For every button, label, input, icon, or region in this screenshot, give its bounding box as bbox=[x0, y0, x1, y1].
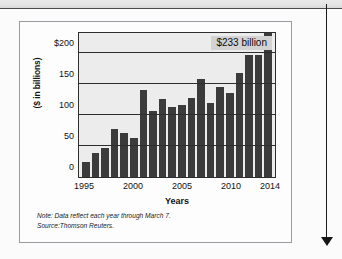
bar-2012 bbox=[244, 55, 254, 177]
x-axis-title: Years bbox=[78, 196, 276, 206]
bar-1999 bbox=[119, 133, 129, 177]
bar-1997 bbox=[100, 148, 110, 177]
plot-area: $233 billion 050100150$20019952000200520… bbox=[78, 32, 276, 178]
down-arrow-icon bbox=[321, 237, 333, 246]
figure-notes: Note: Data reflect each year through Mar… bbox=[37, 211, 277, 231]
x-tick-label: 2005 bbox=[172, 181, 192, 191]
y-tick-label: $200 bbox=[37, 38, 79, 48]
x-tick-label: 2010 bbox=[221, 181, 241, 191]
y-tick-label: 50 bbox=[37, 131, 79, 141]
bar-2009 bbox=[215, 87, 225, 177]
figure-box: ($ in billions) $233 billion 050100150$2… bbox=[19, 21, 292, 243]
bar-2005 bbox=[177, 105, 187, 177]
bar-2002 bbox=[148, 111, 158, 177]
x-tick-label: 1995 bbox=[74, 181, 94, 191]
gridline bbox=[79, 52, 275, 53]
bar-1998 bbox=[110, 129, 120, 177]
top-gray-band bbox=[0, 0, 342, 9]
bar-2011 bbox=[235, 73, 245, 177]
bar-2010 bbox=[225, 93, 235, 177]
bar-1996 bbox=[91, 153, 101, 177]
gridline bbox=[79, 145, 275, 146]
bar-2013 bbox=[254, 55, 264, 177]
y-tick-label: 0 bbox=[37, 162, 79, 172]
source-text: Source:Thomson Reuters. bbox=[37, 221, 277, 231]
bar-series bbox=[79, 33, 275, 177]
right-vertical-rule bbox=[326, 4, 327, 239]
page-root: ($ in billions) $233 billion 050100150$2… bbox=[0, 0, 342, 259]
x-tick-label: 2014 bbox=[260, 181, 280, 191]
gridline bbox=[79, 83, 275, 84]
gridline bbox=[79, 114, 275, 115]
bar-2003 bbox=[158, 99, 168, 177]
bar-1995 bbox=[81, 162, 91, 177]
y-tick-label: 100 bbox=[37, 100, 79, 110]
bar-2004 bbox=[167, 107, 177, 177]
callout-label: $233 billion bbox=[211, 36, 272, 50]
bar-2007 bbox=[196, 79, 206, 177]
bar-2006 bbox=[187, 98, 197, 177]
bar-2001 bbox=[139, 90, 149, 177]
bar-2000 bbox=[129, 138, 139, 177]
y-tick-label: 150 bbox=[37, 69, 79, 79]
x-tick-label: 2000 bbox=[123, 181, 143, 191]
bar-2014 bbox=[263, 33, 273, 177]
note-text: Note: Data reflect each year through Mar… bbox=[37, 211, 277, 221]
